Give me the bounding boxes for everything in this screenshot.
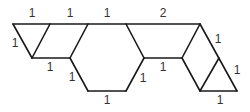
edge-hex-upper-right [126,24,144,58]
edge-right-upper-inner [182,24,200,58]
label-hex-bottom: 1 [104,93,111,107]
label-top-middle-left: 1 [67,6,74,20]
label-top-middle: 1 [104,6,111,20]
label-right-mid-segment: 1 [160,60,167,74]
label-right-bottom: 1 [217,93,224,107]
label-top-right: 2 [160,6,167,20]
label-top-left: 1 [29,6,36,20]
edge-left-triangle-right [32,24,50,58]
label-right-upper-side: 1 [215,32,222,46]
label-left-mid-segment: 1 [47,60,54,74]
labels: 1 1 1 2 1 1 1 1 1 1 1 1 1 [12,6,241,107]
label-hex-lower-right: 1 [140,71,147,85]
label-hex-lower-left: 1 [69,70,76,84]
edges [13,24,237,91]
label-left-triangle-side: 1 [12,36,19,50]
edge-right-lower-inner [182,58,200,91]
edge-right-triangle-inner [200,58,219,91]
label-right-triangle-side: 1 [234,63,241,77]
geometry-figure: 1 1 1 2 1 1 1 1 1 1 1 1 1 [0,0,250,112]
edge-hex-upper-left [70,24,88,58]
